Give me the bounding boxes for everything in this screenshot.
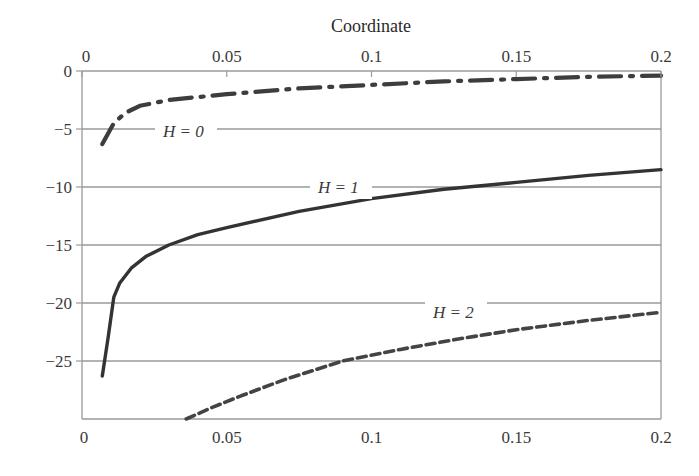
- series-line-h1: [102, 170, 661, 377]
- label-h0: H = 0: [162, 122, 204, 141]
- x-tick-label-top: 0.2: [650, 47, 671, 66]
- label-h2: H = 2: [432, 303, 474, 322]
- x-tick-label-top: 0.05: [212, 47, 242, 66]
- y-tick-label: −5: [54, 120, 72, 139]
- x-tick-label-bottom: 0.2: [650, 428, 671, 447]
- label-h1: H = 1: [317, 178, 359, 197]
- y-tick-label: −10: [45, 178, 72, 197]
- y-tick-label: −25: [45, 352, 72, 371]
- line-chart: 0−5−10−15−20−2500.050.10.150.200.050.10.…: [0, 0, 699, 476]
- y-tick-label: −15: [45, 236, 72, 255]
- x-tick-label-top: 0.15: [501, 47, 531, 66]
- y-tick-label: −20: [45, 294, 72, 313]
- x-tick-label-bottom: 0: [80, 428, 89, 447]
- x-tick-label-top: 0.1: [361, 47, 382, 66]
- x-tick-label-top: 0: [82, 47, 91, 66]
- y-tick-label: 0: [64, 62, 73, 81]
- chart-title: Coordinate: [331, 16, 411, 36]
- x-tick-label-bottom: 0.1: [361, 428, 382, 447]
- curve-labels: H = 0 H = 1 H = 2: [155, 117, 487, 322]
- x-tick-label-bottom: 0.05: [212, 428, 242, 447]
- series-line-h2: [186, 312, 661, 419]
- x-tick-label-bottom: 0.15: [501, 428, 531, 447]
